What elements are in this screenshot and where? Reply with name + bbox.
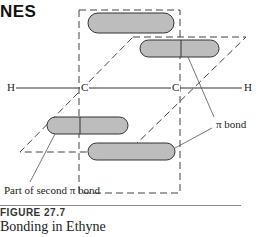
atom-h-right: H	[243, 82, 253, 93]
pi-bond-leader-upper	[188, 57, 214, 117]
orbital-lobe-bottom	[88, 143, 175, 160]
orbital-lobe-right-upper	[140, 40, 219, 57]
second-pi-bond-label: Part of second π bond	[4, 184, 100, 196]
atom-c-right: C	[171, 82, 180, 93]
orbital-lobe-left-lower	[47, 117, 128, 134]
figure-number: FIGURE 27.7	[0, 207, 66, 218]
figure-title: Bonding in Ethyne	[0, 219, 106, 235]
orbital-lobe-top	[88, 13, 174, 33]
vertical-plane	[79, 10, 180, 193]
atom-h-left: H	[6, 82, 16, 93]
pi-bond-leader-lower	[175, 128, 212, 148]
caption-divider	[0, 205, 241, 206]
second-pi-bond-leader	[30, 134, 55, 182]
pi-bond-label: π bond	[216, 118, 246, 130]
atom-c-left: C	[80, 82, 89, 93]
